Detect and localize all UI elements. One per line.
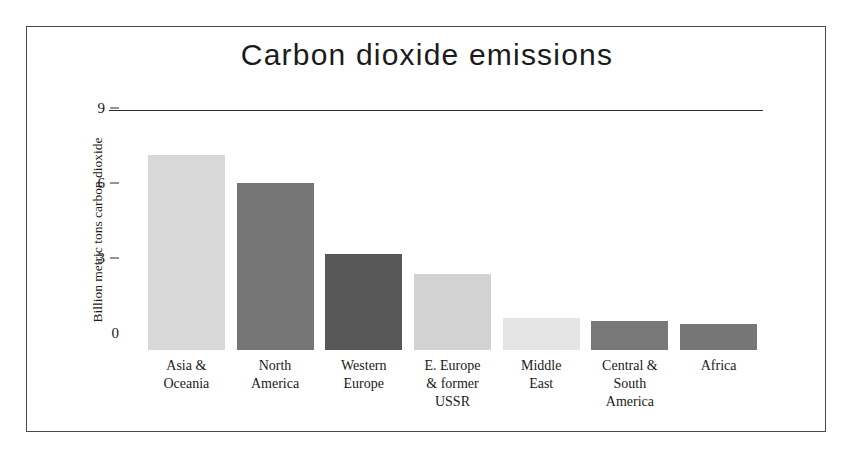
bar-group: Africa xyxy=(674,110,763,350)
bar xyxy=(325,254,402,350)
bar-group: E. Europe& formerUSSR xyxy=(408,110,497,350)
y-tick-6: 6 xyxy=(98,175,124,192)
x-category-label-line: South xyxy=(602,375,658,393)
y-tick-mark xyxy=(110,108,119,109)
x-category-label-line: Middle xyxy=(521,357,561,375)
x-category-label: NorthAmerica xyxy=(251,357,299,393)
bar xyxy=(591,321,668,350)
bar xyxy=(503,318,580,351)
y-tick-label: 0 xyxy=(112,325,120,341)
x-category-label-line: East xyxy=(521,375,561,393)
y-tick-label: 3 xyxy=(98,250,106,266)
chart-figure: Carbon dioxide emissions Billion metric … xyxy=(0,0,854,460)
y-tick-label: 9 xyxy=(98,100,106,116)
plot-area: 0369 Asia &OceaniaNorthAmericaWesternEur… xyxy=(123,110,763,350)
bar-group: WesternEurope xyxy=(319,110,408,350)
y-tick-label: 6 xyxy=(98,175,106,191)
bar-series: Asia &OceaniaNorthAmericaWesternEuropeE.… xyxy=(142,110,763,350)
x-category-label: Africa xyxy=(701,357,737,375)
x-category-label: MiddleEast xyxy=(521,357,561,393)
y-tick-3: 3 xyxy=(98,250,124,267)
x-category-label-line: America xyxy=(251,375,299,393)
y-axis-title: Billion metric tons carbon dioxide xyxy=(90,105,106,355)
bar-group: NorthAmerica xyxy=(231,110,320,350)
x-category-label-line: Oceania xyxy=(163,375,209,393)
bar-group: MiddleEast xyxy=(497,110,586,350)
bar-group: Central &SouthAmerica xyxy=(586,110,675,350)
x-category-label-line: North xyxy=(251,357,299,375)
y-tick-mark xyxy=(110,258,119,259)
bar xyxy=(148,155,225,350)
x-category-label: WesternEurope xyxy=(341,357,387,393)
x-category-label: Asia &Oceania xyxy=(163,357,209,393)
x-category-label-line: E. Europe xyxy=(424,357,480,375)
y-tick-9: 9 xyxy=(98,100,124,117)
x-category-label-line: USSR xyxy=(424,393,480,411)
bar xyxy=(680,324,757,350)
x-category-label-line: America xyxy=(602,393,658,411)
bar-group: Asia &Oceania xyxy=(142,110,231,350)
y-tick-mark xyxy=(110,183,119,184)
x-category-label: Central &SouthAmerica xyxy=(602,357,658,411)
x-category-label: E. Europe& formerUSSR xyxy=(424,357,480,411)
bar xyxy=(237,183,314,351)
x-category-label-line: Asia & xyxy=(163,357,209,375)
x-category-label-line: Central & xyxy=(602,357,658,375)
y-tick-0: 0 xyxy=(112,325,124,342)
x-category-label-line: Europe xyxy=(341,375,387,393)
chart-title: Carbon dioxide emissions xyxy=(0,38,854,72)
x-category-label-line: & former xyxy=(424,375,480,393)
bar xyxy=(414,274,491,350)
x-category-label-line: Africa xyxy=(701,357,737,375)
x-category-label-line: Western xyxy=(341,357,387,375)
